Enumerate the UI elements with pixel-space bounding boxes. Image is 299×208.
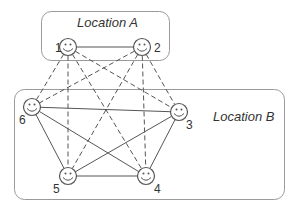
node-1 (60, 39, 77, 56)
node-4 (138, 168, 155, 185)
edge-2-4 (142, 55, 145, 167)
node-label-1: 1 (55, 41, 62, 55)
smiley-face-icon (134, 39, 151, 56)
edge-1-6 (36, 54, 63, 99)
node-label-4: 4 (154, 182, 161, 196)
node-6 (24, 99, 41, 116)
smiley-face-icon (60, 39, 77, 56)
node-3 (171, 104, 188, 121)
network-diagram: Location ALocation B123456 (0, 0, 299, 208)
smiley-face-icon (171, 104, 188, 121)
smiley-face-icon (24, 99, 41, 116)
edge-6-4 (39, 111, 138, 171)
location-label-b: Location B (213, 109, 275, 124)
node-label-2: 2 (154, 41, 161, 55)
edge-6-5 (36, 115, 64, 169)
node-label-3: 3 (186, 118, 193, 132)
edge-2-3 (146, 54, 175, 104)
node-2 (134, 39, 151, 56)
location-label-a: Location A (77, 15, 138, 30)
node-label-5: 5 (53, 182, 60, 196)
edge-2-6 (39, 51, 134, 103)
smiley-face-icon (60, 168, 77, 185)
smiley-face-icon (138, 168, 155, 185)
edge-1-4 (72, 54, 141, 168)
node-5 (60, 168, 77, 185)
edges (36, 47, 175, 176)
edge-3-5 (75, 116, 171, 172)
node-label-6: 6 (19, 113, 26, 127)
